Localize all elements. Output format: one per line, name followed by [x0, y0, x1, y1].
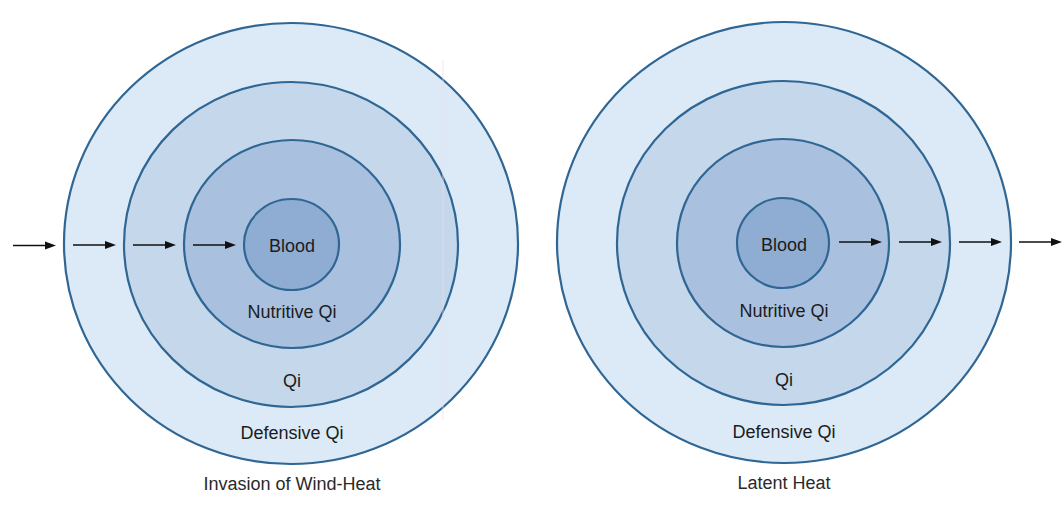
diagram-title: Invasion of Wind-Heat	[203, 474, 380, 494]
label-defensive-qi: Defensive Qi	[240, 423, 343, 443]
arrow-right-icon	[13, 242, 56, 250]
label-qi: Qi	[775, 370, 793, 390]
heat-penetration-diagram: Blood Nutritive Qi Qi Defensive Qi Invas…	[0, 0, 1063, 505]
label-defensive-qi: Defensive Qi	[732, 422, 835, 442]
label-nutritive-qi: Nutritive Qi	[247, 302, 336, 322]
diagram-invasion-of-wind-heat: Blood Nutritive Qi Qi Defensive Qi Invas…	[13, 23, 518, 494]
diagram-latent-heat: Blood Nutritive Qi Qi Defensive Qi Laten…	[557, 22, 1062, 493]
label-qi: Qi	[283, 371, 301, 391]
label-nutritive-qi: Nutritive Qi	[739, 301, 828, 321]
arrow-right-icon	[1019, 238, 1062, 246]
diagram-title: Latent Heat	[737, 473, 830, 493]
label-blood: Blood	[761, 235, 807, 255]
label-blood: Blood	[269, 236, 315, 256]
